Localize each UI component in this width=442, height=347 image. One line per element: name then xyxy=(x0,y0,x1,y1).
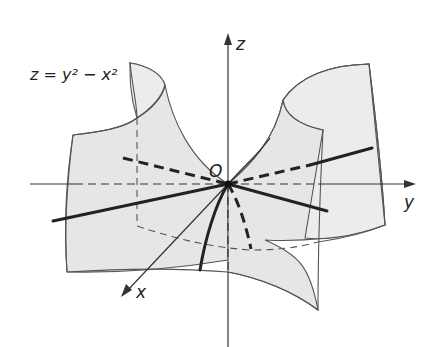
surface-right-lobe xyxy=(228,64,385,310)
z-axis-label: z xyxy=(235,34,246,54)
equation-label: z = y² − x² xyxy=(29,65,118,84)
x-axis-arrowhead xyxy=(121,284,132,297)
y-axis-arrowhead xyxy=(404,180,416,188)
surface-left-lobe xyxy=(66,63,228,272)
origin-label: O xyxy=(209,161,222,181)
z-axis-arrowhead xyxy=(224,33,232,45)
origin-point xyxy=(225,181,232,188)
saddle-surface-diagram: z = y² − x² z y x O xyxy=(0,0,442,347)
y-axis-label: y xyxy=(403,192,415,212)
x-axis-label: x xyxy=(135,282,147,302)
